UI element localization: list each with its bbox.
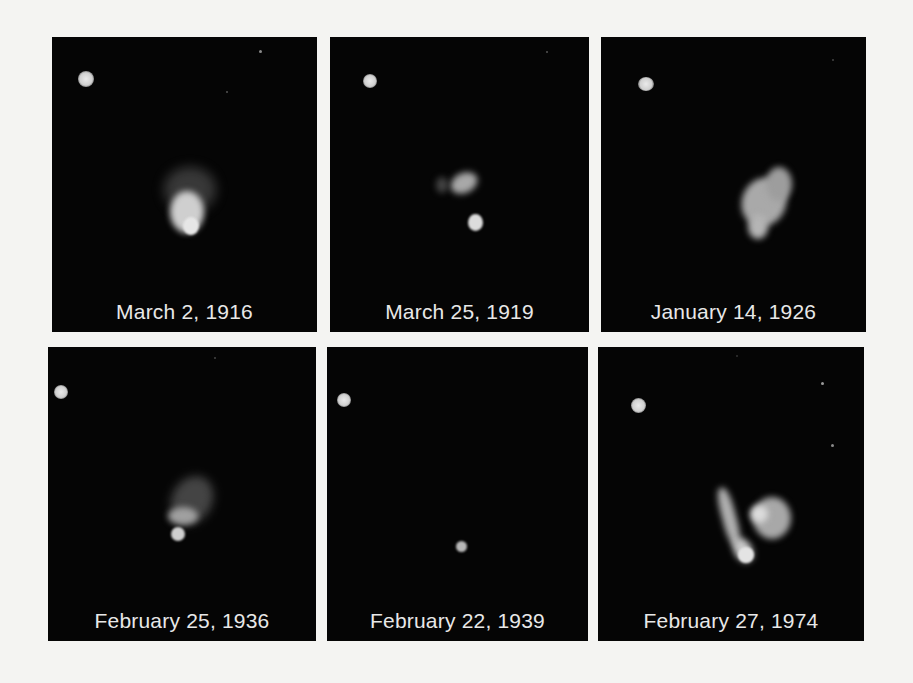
panel-caption: March 2, 1916 [52,300,317,324]
nebula-nucleus [738,547,754,563]
photo-panel-1: March 2, 1916 [52,37,317,332]
photo-panel-2: March 25, 1919 [330,37,589,332]
photo-panel-6: February 27, 1974 [598,347,864,641]
reference-star [631,398,646,413]
photo-panel-5: February 22, 1939 [327,347,588,641]
faint-star [821,382,824,385]
photo-panel-3: January 14, 1926 [601,37,866,332]
panel-caption: February 27, 1974 [598,609,864,633]
nebula-nucleus [171,527,185,541]
reference-star [78,71,94,87]
reference-star [363,74,377,88]
reference-star [54,385,68,399]
photo-panel-4: February 25, 1936 [48,347,316,641]
panel-caption: January 14, 1926 [601,300,866,324]
faint-star [546,51,548,53]
panel-caption: February 22, 1939 [327,609,588,633]
faint-star [736,355,738,357]
nebula-lobe [766,167,792,201]
nebula-nucleus [183,217,199,235]
reference-star [638,77,654,91]
faint-star [226,91,228,93]
faint-star [214,357,216,359]
faint-star [259,50,262,53]
faint-star [831,444,834,447]
panel-caption: March 25, 1919 [330,300,589,324]
reference-star [337,393,351,407]
panel-caption: February 25, 1936 [48,609,316,633]
nebula-nucleus [456,541,467,552]
nebula-nucleus [468,214,483,231]
nebula-tail [748,215,768,239]
nebula-wisp [436,177,448,193]
faint-star [832,59,834,61]
nebula-glow [447,168,481,198]
nebula-bright [750,505,768,523]
nebula-core [168,507,198,525]
